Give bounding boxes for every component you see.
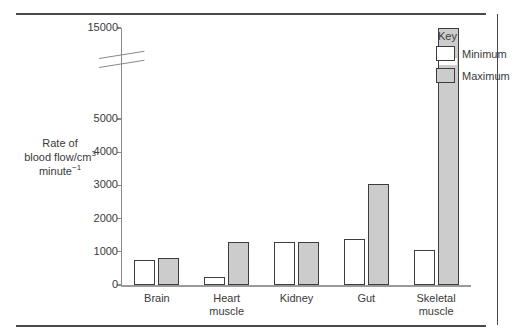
y-tick-label-2000: 2000 (94, 213, 118, 224)
y-tick-label-5000: 5000 (94, 113, 118, 124)
legend-label-minimum: Minimum (462, 48, 507, 60)
chart-legend: Key Minimum Maximum (436, 30, 510, 90)
x-category-label-kidney: Kidney (262, 292, 332, 305)
x-axis-line (121, 285, 471, 287)
y-tick-label-3000: 3000 (94, 179, 118, 190)
legend-entry-maximum: Maximum (436, 68, 510, 83)
x-category-label-skeletal-muscle: Skeletal muscle (401, 292, 471, 318)
bar-kidney-maximum (298, 242, 319, 285)
legend-title: Key (438, 30, 510, 42)
bar-heart-muscle-minimum (204, 277, 225, 285)
legend-swatch-minimum-icon (436, 46, 455, 61)
y-tick-label-15000: 15000 (87, 22, 118, 33)
y-tick-label-1000: 1000 (94, 246, 118, 257)
figure: 01000200030004000500015000 BrainHeart mu… (0, 0, 520, 336)
legend-label-maximum: Maximum (462, 70, 510, 82)
y-tick-label-0: 0 (112, 279, 118, 290)
legend-entry-minimum: Minimum (436, 46, 510, 61)
x-category-label-heart-muscle: Heart muscle (192, 292, 262, 318)
bar-skeletal-muscle-minimum (414, 250, 435, 285)
y-axis-break-marks (99, 50, 145, 76)
y-axis-title: Rate ofblood flow/cm3minute−1 (8, 136, 112, 178)
bar-brain-minimum (134, 260, 155, 285)
bar-gut-minimum (344, 239, 365, 285)
legend-swatch-maximum-icon (436, 68, 455, 83)
bar-heart-muscle-maximum (228, 242, 249, 285)
bar-gut-maximum (368, 184, 389, 285)
bar-kidney-minimum (274, 242, 295, 285)
x-category-label-brain: Brain (122, 292, 192, 305)
x-category-label-gut: Gut (331, 292, 401, 305)
bar-brain-maximum (158, 258, 179, 285)
